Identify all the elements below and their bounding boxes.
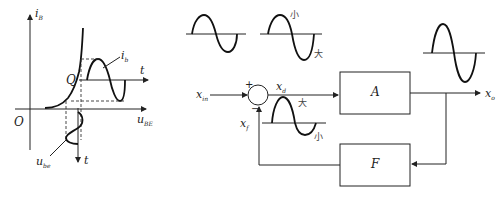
- amplifier-block-label: A: [371, 85, 380, 99]
- input-label: xin: [196, 89, 208, 102]
- ube-sine-wave: [66, 112, 83, 144]
- output-label: xo: [485, 88, 495, 101]
- feedback-wave-top-note: 大: [298, 99, 307, 108]
- x-axis-label: uBE: [137, 114, 153, 127]
- diagram-canvas: [0, 0, 503, 203]
- feedback-sine-wave: [272, 97, 316, 135]
- plus-sign: +: [245, 80, 253, 90]
- ib-leader-line: [103, 57, 120, 68]
- characteristic-curve: [45, 28, 83, 108]
- ube-wave-label: ube: [36, 156, 51, 169]
- origin-label: O: [14, 116, 24, 128]
- ib-wave-label: ib: [121, 50, 128, 63]
- diff-signal-label: xd: [276, 81, 286, 94]
- transistor-input-characteristic: [15, 15, 148, 162]
- wave2-bottom-note: 大: [314, 50, 323, 59]
- distorted-sine-wave: [268, 15, 314, 60]
- feedback-block-diagram: [186, 15, 485, 186]
- time-label-right: t: [140, 65, 144, 76]
- minus-sign: −: [251, 104, 259, 114]
- feedback-signal-label: xf: [240, 118, 248, 131]
- wave2-top-note: 小: [290, 11, 299, 20]
- y-axis-label: iB: [35, 8, 43, 21]
- ube-leader-line: [50, 140, 66, 156]
- q-point-label: Q: [66, 74, 76, 86]
- feedback-wave-bottom-note: 小: [314, 133, 323, 142]
- time-label-down: t: [84, 155, 88, 166]
- feedback-block-label: F: [371, 157, 379, 171]
